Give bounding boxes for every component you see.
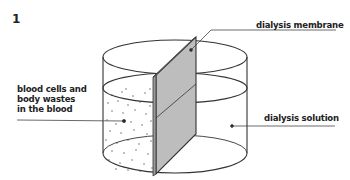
blood-pointer-dot bbox=[122, 119, 125, 122]
dialysis-membrane bbox=[153, 37, 196, 176]
blood-label: blood cells and body wastes in the blood bbox=[17, 84, 87, 114]
blood-label-line-3: in the blood bbox=[17, 104, 87, 114]
membrane-leader-line bbox=[191, 30, 336, 50]
solution-pointer-dot bbox=[231, 125, 234, 128]
solution-label: dialysis solution bbox=[264, 113, 339, 123]
membrane-label: dialysis membrane bbox=[256, 20, 344, 30]
membrane-pointer-dot bbox=[190, 49, 193, 52]
